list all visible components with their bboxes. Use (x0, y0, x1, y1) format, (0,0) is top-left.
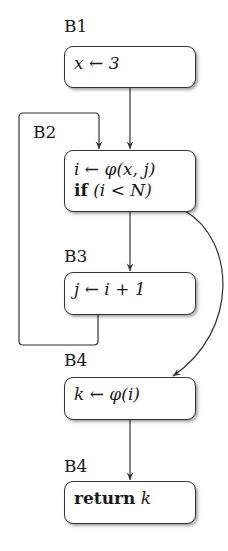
block-label-b1: B1 (64, 18, 87, 35)
block-b4-phi: k ← φ(i) (64, 377, 196, 420)
block-label-b4-phi: B4 (64, 352, 87, 369)
block-b2: i ← φ(x, j) if (i < N) (64, 150, 196, 212)
keyword-return: return (74, 488, 135, 508)
block-b1: x ← 3 (64, 46, 196, 88)
block-b4-return-line-1: return k (74, 488, 186, 509)
keyword-if: if (74, 180, 88, 200)
block-b4-return: return k (64, 481, 196, 524)
block-label-b3: B3 (64, 248, 87, 265)
block-b3-line-1: j ← i + 1 (74, 279, 186, 300)
block-b4-phi-line-1: k ← φ(i) (74, 384, 186, 405)
block-b2-line-1: i ← φ(x, j) (74, 159, 186, 180)
block-b2-line-2: if (i < N) (74, 180, 186, 201)
block-b1-line-1: x ← 3 (74, 53, 186, 74)
block-b3: j ← i + 1 (64, 272, 196, 315)
condition: (i < N) (88, 180, 152, 200)
return-value: k (141, 488, 151, 508)
block-label-b4-return: B4 (64, 458, 87, 475)
block-label-b2: B2 (33, 124, 56, 141)
